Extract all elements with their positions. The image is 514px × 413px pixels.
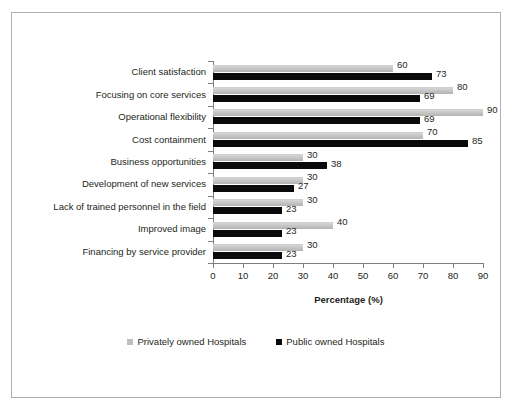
value-tick — [303, 264, 304, 268]
bar-public — [213, 185, 294, 192]
chart-frame: Client satisfactionFocusing on core serv… — [11, 12, 501, 398]
bar-private — [213, 109, 483, 116]
value-axis-line — [213, 263, 484, 264]
bar-value-label: 70 — [427, 127, 438, 137]
bar-value-label: 60 — [397, 60, 408, 70]
bar-public — [213, 117, 420, 124]
value-tick-label: 10 — [231, 270, 255, 281]
bar-group: 3023 — [12, 196, 500, 218]
value-tick — [393, 264, 394, 268]
bar-group: 7085 — [12, 128, 500, 150]
bar-value-label: 85 — [472, 136, 483, 146]
value-tick — [333, 264, 334, 268]
bar-value-label: 23 — [286, 204, 297, 214]
bar-value-label: 69 — [424, 91, 435, 101]
bar-value-label: 30 — [307, 195, 318, 205]
value-tick — [453, 264, 454, 268]
bar-value-label: 27 — [298, 181, 309, 191]
bar-private — [213, 65, 393, 72]
bar-public — [213, 252, 282, 259]
bar-group: 4023 — [12, 218, 500, 240]
value-tick — [273, 264, 274, 268]
bar-value-label: 38 — [331, 159, 342, 169]
bar-value-label: 30 — [307, 150, 318, 160]
value-tick-label: 60 — [381, 270, 405, 281]
bar-private — [213, 154, 303, 161]
bar-value-label: 73 — [436, 69, 447, 79]
legend-label: Privately owned Hospitals — [137, 336, 246, 347]
value-tick-label: 30 — [291, 270, 315, 281]
legend-label: Public owned Hospitals — [286, 336, 384, 347]
value-tick-label: 70 — [411, 270, 435, 281]
bar-public — [213, 207, 282, 214]
chart-legend: Privately owned HospitalsPublic owned Ho… — [12, 336, 500, 347]
plot-wrapper: Client satisfactionFocusing on core serv… — [12, 13, 500, 397]
black-square-icon — [276, 339, 282, 345]
bar-private — [213, 132, 423, 139]
x-axis-title: Percentage (%) — [213, 294, 484, 305]
legend-entry[interactable]: Public owned Hospitals — [276, 336, 384, 347]
bar-public — [213, 73, 432, 80]
bar-value-label: 40 — [337, 217, 348, 227]
bar-value-label: 23 — [286, 226, 297, 236]
value-tick-label: 50 — [351, 270, 375, 281]
bar-private — [213, 222, 333, 229]
bar-group: 8069 — [12, 83, 500, 105]
value-tick-label: 80 — [441, 270, 465, 281]
value-tick — [363, 264, 364, 268]
bar-group: 6073 — [12, 61, 500, 83]
bar-group: 9069 — [12, 106, 500, 128]
gray-square-icon — [127, 339, 133, 345]
value-tick-label: 90 — [471, 270, 495, 281]
bar-value-label: 90 — [487, 105, 498, 115]
legend-entry[interactable]: Privately owned Hospitals — [127, 336, 246, 347]
value-tick — [243, 264, 244, 268]
value-tick — [423, 264, 424, 268]
bar-public — [213, 162, 327, 169]
bar-private — [213, 177, 303, 184]
bar-value-label: 30 — [307, 240, 318, 250]
bar-private — [213, 87, 453, 94]
bar-group: 3023 — [12, 241, 500, 263]
value-tick-label: 40 — [321, 270, 345, 281]
bar-group: 3027 — [12, 173, 500, 195]
bar-group: 3038 — [12, 151, 500, 173]
bar-value-label: 23 — [286, 249, 297, 259]
bar-public — [213, 95, 420, 102]
value-tick — [213, 264, 214, 268]
value-tick-label: 0 — [201, 270, 225, 281]
bar-public — [213, 140, 468, 147]
value-tick — [483, 264, 484, 268]
bar-value-label: 80 — [457, 82, 468, 92]
bar-value-label: 30 — [307, 172, 318, 182]
bar-public — [213, 230, 282, 237]
value-tick-label: 20 — [261, 270, 285, 281]
bar-value-label: 69 — [424, 114, 435, 124]
